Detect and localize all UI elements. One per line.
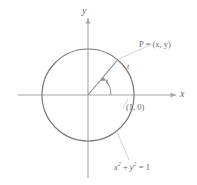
unit-circle-figure: y x t t P = (x, y) (1, 0) x2 + y2 = 1: [0, 0, 197, 185]
y-axis: [86, 18, 91, 178]
x-axis-arrowhead: [171, 93, 177, 98]
equation-rhs: = 1: [139, 162, 150, 172]
unit-circle-svg: [0, 0, 197, 185]
angle-t-label: t: [106, 78, 108, 86]
equation-x-exponent: 2: [118, 161, 121, 167]
leader-line-equation: [116, 130, 129, 160]
unit-point-label: (1, 0): [126, 103, 144, 112]
arc-length-t-label: t: [127, 63, 129, 71]
point-p-label: P = (x, y): [139, 40, 171, 49]
y-axis-arrowhead: [86, 18, 91, 24]
circle-equation-label: x2 + y2 = 1: [114, 163, 150, 172]
equation-y-exponent: 2: [134, 161, 137, 167]
y-axis-label: y: [82, 6, 86, 16]
x-axis-label: x: [180, 89, 184, 99]
